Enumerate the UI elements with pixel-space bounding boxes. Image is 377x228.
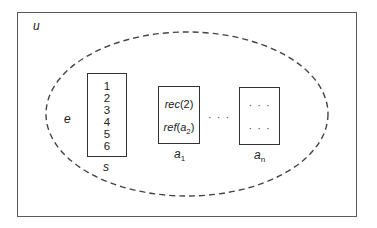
record-box-a1: rec(2) ref(a2) — [158, 86, 200, 144]
record-entry-rec: rec(2) — [159, 99, 199, 110]
universe-label: u — [33, 20, 40, 32]
record-label-an: an — [254, 149, 265, 164]
store-value: 3 — [88, 105, 126, 117]
record-entry-ref: ref(a2) — [159, 122, 199, 136]
record-label-a1: a1 — [174, 148, 185, 163]
store-box: 1 2 3 4 5 6 — [87, 73, 127, 157]
store-value: 2 — [88, 93, 126, 105]
ellipsis-between-records: · · · — [199, 112, 239, 123]
record-box-an: · · · · · · — [239, 87, 280, 145]
record-entry-ellipsis: · · · — [240, 123, 279, 134]
store-label: s — [103, 161, 109, 173]
store-value: 4 — [88, 117, 126, 129]
record-entry-ellipsis: · · · — [240, 100, 279, 111]
environment-label: e — [64, 113, 71, 125]
store-value: 1 — [88, 81, 126, 93]
store-value: 6 — [88, 141, 126, 153]
store-value: 5 — [88, 129, 126, 141]
